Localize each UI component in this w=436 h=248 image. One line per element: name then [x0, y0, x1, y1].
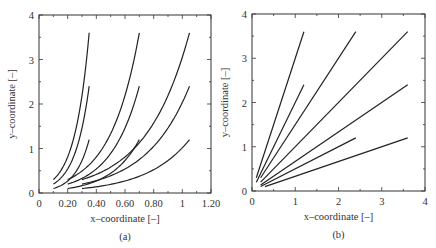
x-tick-label: 0.20 — [58, 198, 76, 209]
series-line-5 — [261, 85, 408, 185]
x-axis-label: x–coordinate [–] — [90, 213, 160, 224]
y-tick-label: 0 — [242, 186, 247, 197]
panel-caption: (a) — [119, 231, 131, 243]
x-tick-label: 0 — [249, 196, 254, 207]
y-tick-label: 3 — [29, 55, 34, 66]
series-curve-4 — [68, 33, 140, 180]
series-line-4 — [261, 32, 408, 182]
x-tick-label: 3 — [379, 196, 384, 207]
x-axis-label: x–coordinate [–] — [304, 211, 374, 222]
y-tick-label: 0 — [29, 188, 34, 199]
y-axis-label: y–coordinate [–] — [219, 68, 230, 138]
x-tick-label: 0.60 — [116, 198, 134, 209]
series-curve-5 — [68, 86, 140, 184]
x-tick-label: 0.80 — [144, 198, 162, 209]
y-tick-label: 4 — [29, 10, 35, 21]
series-curve-7 — [82, 33, 190, 180]
x-tick-label: 0 — [36, 198, 41, 209]
x-tick-label: 2 — [336, 196, 341, 207]
x-tick-label: 1 — [293, 196, 298, 207]
series-line-3 — [261, 32, 356, 178]
plot-frame — [39, 15, 211, 193]
panel-caption: (b) — [332, 229, 345, 241]
panel-b: 0123401234x–coordinate [–]y–coordinate [… — [219, 9, 428, 241]
y-tick-label: 1 — [242, 142, 247, 153]
x-tick-label: 4 — [422, 196, 428, 207]
y-tick-label: 3 — [242, 53, 247, 64]
series-curve-8 — [82, 86, 190, 184]
figure: 00.200.400.600.8011.2001234x–coordinate … — [0, 0, 436, 248]
x-tick-label: 1 — [180, 198, 185, 209]
x-tick-label: 1.20 — [202, 198, 220, 209]
x-tick-label: 0.40 — [87, 198, 105, 209]
panel-a: 00.200.400.600.8011.2001234x–coordinate … — [6, 10, 220, 243]
y-tick-label: 4 — [242, 9, 248, 20]
y-tick-label: 2 — [29, 99, 34, 110]
y-tick-label: 2 — [242, 98, 247, 109]
series-line-7 — [265, 138, 408, 187]
series-line-1 — [256, 32, 304, 178]
y-axis-label: y–coordinate [–] — [6, 69, 17, 139]
y-tick-label: 1 — [29, 144, 34, 155]
